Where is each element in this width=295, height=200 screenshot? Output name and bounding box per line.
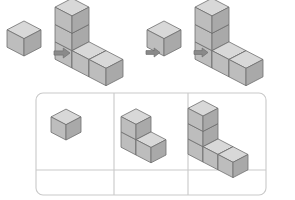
answer-table-cell-cell-r2c2[interactable]: [114, 170, 188, 195]
worksheet-root: [0, 0, 295, 200]
answer-table-cell-cell-r2c1[interactable]: [36, 170, 114, 195]
worksheet-canvas: [0, 0, 295, 200]
